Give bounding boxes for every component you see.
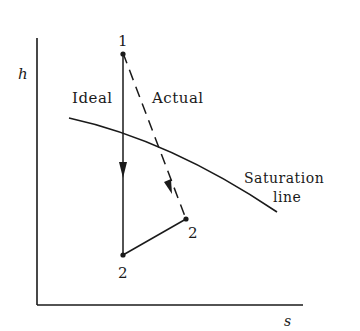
point-1-label: 1: [118, 32, 128, 50]
y-axis-label: h: [18, 65, 28, 83]
actual-label: Actual: [151, 89, 204, 107]
point-2-ideal: [120, 252, 125, 257]
ideal-arrow-icon: [119, 162, 127, 178]
saturation-label-line1: Saturation: [244, 170, 324, 186]
x-axis-label: s: [284, 313, 291, 329]
point-2-actual-label: 2: [188, 224, 198, 242]
hs-diagram: h s 1 2 2 Ideal Actual Saturation line: [0, 0, 360, 331]
saturation-label-line2: line: [273, 189, 301, 205]
actual-arrow-icon: [164, 179, 172, 194]
point-2-actual: [183, 216, 188, 221]
point-2-ideal-label: 2: [118, 264, 128, 282]
point-1: [120, 51, 125, 56]
ideal-label: Ideal: [72, 89, 113, 107]
end-state-connector: [123, 219, 186, 255]
saturation-line: [69, 118, 277, 212]
